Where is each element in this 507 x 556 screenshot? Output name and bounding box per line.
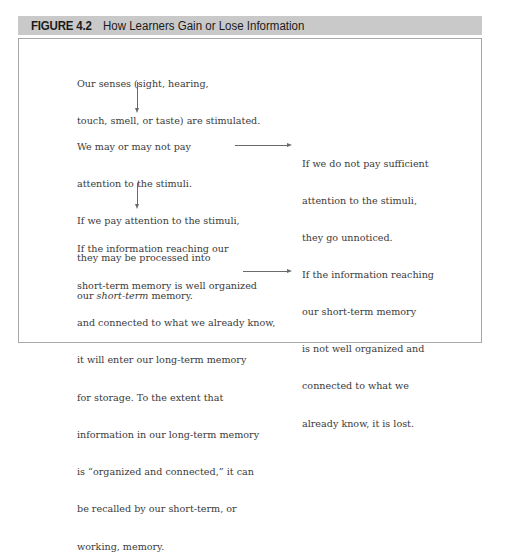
arrowhead-right-icon bbox=[287, 269, 292, 273]
arrow-right-1 bbox=[235, 145, 288, 146]
node-unnoticed: If we do not pay sufficient attention to… bbox=[302, 133, 429, 257]
arrowhead-right-icon bbox=[287, 143, 292, 147]
node-lost: If the information reaching our short-te… bbox=[302, 244, 434, 443]
node-long-term: If the information reaching our short-te… bbox=[77, 218, 275, 556]
arrowhead-down-icon bbox=[135, 204, 139, 209]
arrow-down-2 bbox=[137, 183, 138, 205]
figure-number: FIGURE 4.2 bbox=[31, 19, 92, 33]
figure-title: How Learners Gain or Lose Information bbox=[103, 19, 304, 33]
arrow-right-2 bbox=[243, 271, 288, 272]
arrow-down-1 bbox=[137, 82, 138, 109]
arrowhead-down-icon bbox=[135, 108, 139, 113]
figure-header: FIGURE 4.2 How Learners Gain or Lose Inf… bbox=[18, 16, 482, 35]
